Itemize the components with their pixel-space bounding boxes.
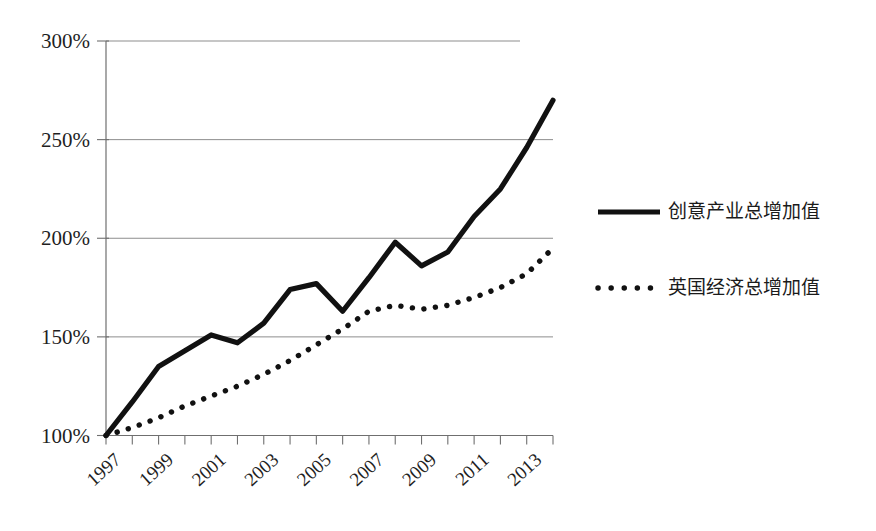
series-line-1 xyxy=(106,100,553,435)
x-tick-label: 2007 xyxy=(345,449,387,490)
y-tick-label: 250% xyxy=(41,128,90,152)
x-tick-label: 1997 xyxy=(82,449,124,490)
x-tick-labels: 199719992001200320052007200920112013 xyxy=(82,449,545,490)
chart-figure: 100%150%200%250%300% 1997199920012003200… xyxy=(0,0,876,531)
series-line-2 xyxy=(106,248,553,435)
x-tick-label: 1999 xyxy=(135,449,177,490)
x-tick-label: 2003 xyxy=(240,449,282,490)
line-chart: 100%150%200%250%300% 1997199920012003200… xyxy=(0,0,876,531)
x-tick-label: 2009 xyxy=(398,449,440,490)
y-tick-label: 300% xyxy=(41,29,90,53)
y-tick-marks xyxy=(97,41,109,436)
y-tick-labels: 100%150%200%250%300% xyxy=(41,29,90,448)
x-tick-label: 2005 xyxy=(293,449,335,490)
data-series xyxy=(106,100,553,435)
y-tick-label: 100% xyxy=(41,424,90,448)
gridlines xyxy=(106,41,553,436)
legend-label-1: 创意产业总增加值 xyxy=(668,200,820,222)
x-tick-label: 2011 xyxy=(451,449,493,490)
x-tick-label: 2001 xyxy=(188,449,230,490)
legend-label-2: 英国经济总增加值 xyxy=(668,276,820,298)
x-tick-marks xyxy=(106,436,553,445)
chart-legend: 创意产业总增加值英国经济总增加值 xyxy=(598,200,820,298)
y-tick-label: 150% xyxy=(41,325,90,349)
y-tick-label: 200% xyxy=(41,226,90,250)
x-tick-label: 2013 xyxy=(503,449,545,490)
